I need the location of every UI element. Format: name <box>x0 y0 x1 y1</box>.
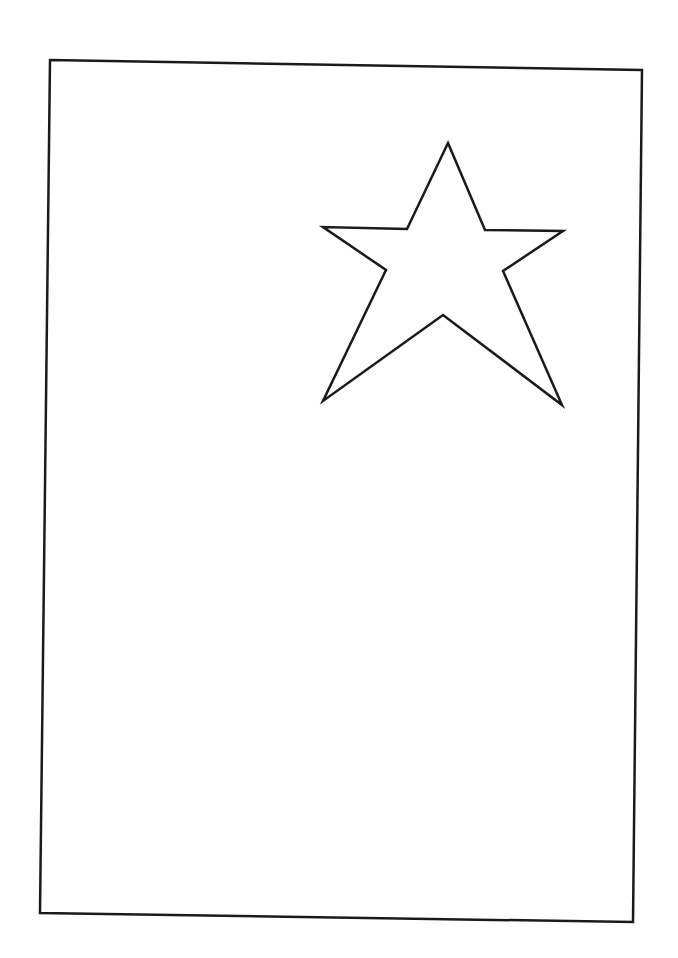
page-canvas: rectangular-border five-pointed-star-out… <box>0 0 678 958</box>
background <box>0 0 678 958</box>
drawing-surface <box>0 0 678 958</box>
